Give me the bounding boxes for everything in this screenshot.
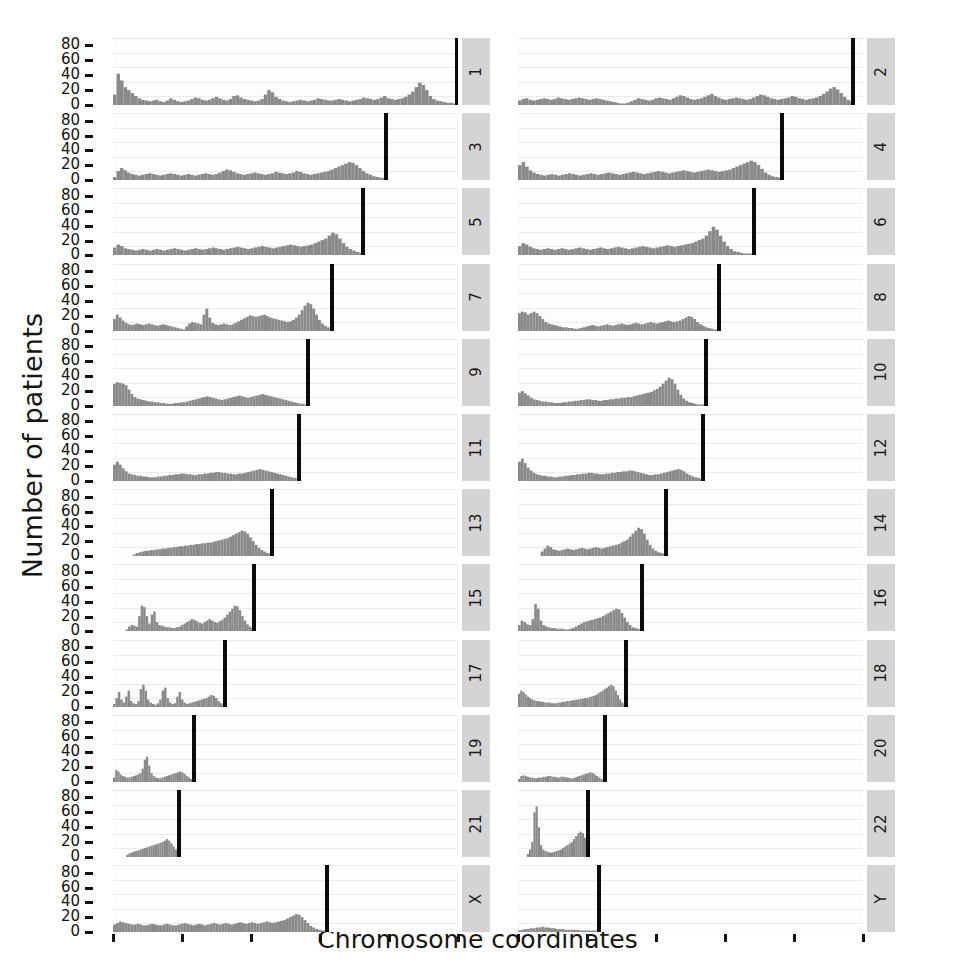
chromosome-panel-19 — [113, 715, 458, 782]
panel-plot-area — [113, 188, 458, 255]
x-axis-tick-mark — [181, 934, 184, 942]
strip-label-text: 16 — [872, 588, 890, 607]
y-axis-tick-label: 40 — [40, 594, 80, 609]
y-axis-tick-label: 60 — [40, 654, 80, 669]
y-axis-tick-mark — [85, 676, 93, 679]
chromosome-panel-7 — [113, 264, 458, 331]
y-axis-tick-label: 60 — [40, 128, 80, 143]
histogram-bars — [518, 790, 863, 857]
strip-label-text: 12 — [872, 438, 890, 457]
y-axis-tick-label: 40 — [40, 218, 80, 233]
histogram-bars — [113, 489, 458, 556]
chromosome-end-marker — [223, 640, 227, 707]
chromosome-end-marker — [177, 790, 181, 857]
panel-strip-label-11: 11 — [462, 414, 490, 481]
y-axis-tick-mark — [85, 360, 93, 363]
y-axis-tick-label: 80 — [40, 113, 80, 128]
chromosome-panel-8 — [518, 264, 863, 331]
y-axis-tick-label: 20 — [40, 383, 80, 398]
panel-plot-area — [518, 414, 863, 481]
y-axis-tick-mark — [85, 300, 93, 303]
y-axis-tick-mark — [85, 555, 93, 558]
strip-label-text: 14 — [872, 513, 890, 532]
y-axis-tick-mark — [85, 661, 93, 664]
panel-grid: 0204060800204060800204060800204060800204… — [0, 0, 955, 974]
y-axis-tick-mark — [85, 405, 93, 408]
y-axis-tick-label: 20 — [40, 909, 80, 924]
y-axis-tick-label: 80 — [40, 413, 80, 428]
strip-label-text: 3 — [467, 142, 485, 152]
histogram-bars — [113, 339, 458, 406]
chromosome-end-marker — [306, 339, 310, 406]
panel-strip-label-5: 5 — [462, 188, 490, 255]
panel-strip-label-X: X — [462, 865, 490, 932]
histogram-bars — [518, 414, 863, 481]
y-axis-tick-label: 0 — [40, 849, 80, 864]
panel-strip-label-17: 17 — [462, 640, 490, 707]
panel-plot-area — [113, 640, 458, 707]
y-axis-tick-label: 80 — [40, 37, 80, 52]
y-axis-tick-label: 80 — [40, 564, 80, 579]
panel-strip-label-12: 12 — [867, 414, 895, 481]
y-axis-tick-label: 20 — [40, 233, 80, 248]
panel-plot-area — [113, 38, 458, 105]
strip-label-text: 18 — [872, 664, 890, 683]
y-axis-tick-mark — [85, 420, 93, 423]
y-axis-tick-mark — [85, 856, 93, 859]
chromosome-end-marker — [664, 489, 668, 556]
strip-label-text: 21 — [467, 814, 485, 833]
y-axis-tick-label: 20 — [40, 308, 80, 323]
panel-plot-area — [518, 564, 863, 631]
y-axis-tick-label: 0 — [40, 172, 80, 187]
chromosome-end-marker — [384, 113, 388, 180]
histogram-bars — [518, 640, 863, 707]
strip-label-text: 17 — [467, 664, 485, 683]
y-axis-tick-label: 60 — [40, 880, 80, 895]
y-axis-tick-label: 20 — [40, 834, 80, 849]
y-axis-tick-mark — [85, 285, 93, 288]
histogram-bars — [113, 264, 458, 331]
chromosome-panel-13 — [113, 489, 458, 556]
x-axis-tick-mark — [388, 934, 391, 942]
panel-plot-area — [518, 339, 863, 406]
chromosome-panel-18 — [518, 640, 863, 707]
strip-label-text: 1 — [467, 67, 485, 77]
strip-label-text: 10 — [872, 363, 890, 382]
chromosome-end-marker — [297, 414, 301, 481]
y-axis-tick-label: 20 — [40, 759, 80, 774]
y-axis-tick-mark — [85, 916, 93, 919]
strip-label-text: 9 — [467, 368, 485, 378]
histogram-bars — [518, 865, 863, 932]
y-axis-tick-label: 60 — [40, 804, 80, 819]
chromosome-end-marker — [624, 640, 628, 707]
y-axis-tick-label: 0 — [40, 924, 80, 939]
chromosome-histogram-figure: Number of patients Chromosome coordinate… — [0, 0, 955, 974]
y-axis-tick-mark — [85, 240, 93, 243]
panel-strip-label-19: 19 — [462, 715, 490, 782]
strip-label-text: 8 — [872, 292, 890, 302]
x-axis-tick-mark — [655, 934, 658, 942]
panel-plot-area — [518, 865, 863, 932]
y-axis-tick-mark — [85, 691, 93, 694]
y-axis-tick-label: 60 — [40, 278, 80, 293]
chromosome-end-marker — [586, 790, 590, 857]
y-axis-tick-label: 80 — [40, 639, 80, 654]
y-axis-tick-label: 60 — [40, 203, 80, 218]
y-axis-tick-mark — [85, 149, 93, 152]
chromosome-panel-5 — [113, 188, 458, 255]
x-axis-tick-mark — [862, 934, 865, 942]
panel-strip-label-21: 21 — [462, 790, 490, 857]
y-axis-tick-mark — [85, 525, 93, 528]
chromosome-end-marker — [252, 564, 256, 631]
histogram-bars — [113, 414, 458, 481]
panel-plot-area — [518, 113, 863, 180]
strip-label-text: 19 — [467, 739, 485, 758]
panel-strip-label-18: 18 — [867, 640, 895, 707]
y-axis-tick-mark — [85, 74, 93, 77]
panel-plot-area — [113, 715, 458, 782]
x-axis-tick-mark — [793, 934, 796, 942]
chromosome-panel-9 — [113, 339, 458, 406]
panel-plot-area — [113, 264, 458, 331]
histogram-bars — [518, 339, 863, 406]
strip-label-text: 4 — [872, 142, 890, 152]
